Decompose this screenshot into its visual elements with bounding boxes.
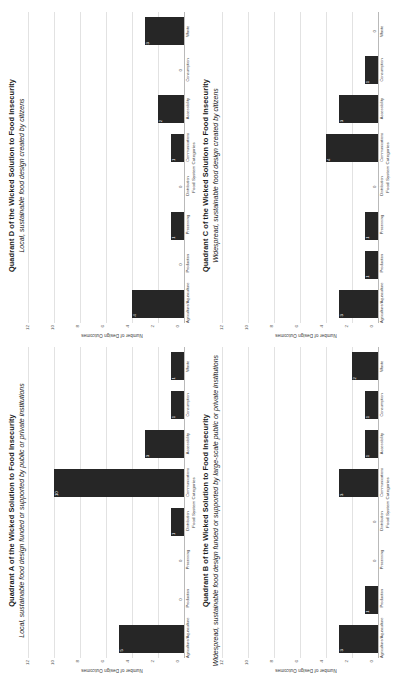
bar-cell[interactable]: 3 xyxy=(222,619,378,658)
bar-value-label: 1 xyxy=(365,416,370,419)
bar[interactable]: 4 xyxy=(326,134,378,162)
x-tick-label: Agriculture/Aquaculture xyxy=(186,618,190,658)
bar-value-label: 0 xyxy=(179,560,184,562)
panel-b-y-axis-label: Number of Design Outcomes xyxy=(275,667,337,674)
x-tick-label: Production xyxy=(186,244,190,283)
bar[interactable]: 3 xyxy=(339,625,378,653)
y-tick-label: 12 xyxy=(219,325,223,332)
bar-cell[interactable]: 0 xyxy=(28,51,184,90)
panel-c-x-ticks: Agriculture/AquacultureProductionProcess… xyxy=(379,12,384,323)
bar-series: 31003112 xyxy=(222,347,378,658)
bar-cell[interactable]: 4 xyxy=(28,284,184,323)
bar-cell[interactable]: 1 xyxy=(28,129,184,168)
bar[interactable]: 1 xyxy=(171,134,184,162)
bar[interactable]: 1 xyxy=(365,430,378,458)
bar-cell[interactable]: 1 xyxy=(222,425,378,464)
bar-cell[interactable]: 3 xyxy=(28,12,184,51)
bar-cell[interactable]: 1 xyxy=(28,386,184,425)
panel-a-plot-area: Number of Design Outcomes 121086420 5001… xyxy=(28,347,196,674)
bar[interactable]: 1 xyxy=(365,391,378,419)
bar-cell[interactable]: 3 xyxy=(222,464,378,503)
bar-cell[interactable]: 0 xyxy=(222,12,378,51)
bar-cell[interactable]: 3 xyxy=(222,284,378,323)
bar[interactable]: 1 xyxy=(171,212,184,240)
bar-cell[interactable]: 1 xyxy=(28,347,184,386)
panel-d-chart: 40101203 Agriculture/AquacultureProducti… xyxy=(28,12,196,323)
panel-b-y-ticks: 121086420 xyxy=(222,658,390,667)
bar-value-label: 0 xyxy=(179,186,184,188)
bar[interactable]: 3 xyxy=(145,17,184,45)
bar-cell[interactable]: 1 xyxy=(28,503,184,542)
bar[interactable]: 1 xyxy=(171,508,184,536)
bar-cell[interactable]: 0 xyxy=(28,580,184,619)
bar-value-label: 3 xyxy=(339,314,344,317)
panel-quadrant-d: Quadrant D of the Wicked Solution to Foo… xyxy=(4,6,198,341)
bar[interactable]: 3 xyxy=(145,430,184,458)
y-tick-label: 2 xyxy=(344,660,348,667)
bar-cell[interactable]: 1 xyxy=(28,206,184,245)
bar[interactable]: 3 xyxy=(339,290,378,318)
panel-a-x-axis-label: Food System Categories xyxy=(191,347,196,658)
bar-value-label: 1 xyxy=(365,81,370,84)
bar-cell[interactable]: 1 xyxy=(222,580,378,619)
bar-value-label: 1 xyxy=(365,275,370,278)
x-tick-label: Distribution xyxy=(380,167,384,206)
bar-cell[interactable]: 1 xyxy=(222,206,378,245)
x-tick-label: Accessibility xyxy=(380,424,384,463)
panel-quadrant-b: Quadrant B of the Wicked Solution to Foo… xyxy=(198,341,392,676)
panel-d-x-ticks: Agriculture/AquacultureProductionProcess… xyxy=(185,12,190,323)
bar-cell[interactable]: 0 xyxy=(28,168,184,207)
bar-cell[interactable]: 0 xyxy=(222,168,378,207)
x-tick-label: Agriculture/Aquaculture xyxy=(186,283,190,323)
y-tick-label: 6 xyxy=(100,660,104,667)
panel-c-subtitle: Widespread, sustainable food design crea… xyxy=(212,12,220,339)
panel-d-gridwrap: 40101203 xyxy=(28,12,185,323)
bar[interactable]: 3 xyxy=(339,95,378,123)
bar[interactable]: 2 xyxy=(352,352,378,380)
bar[interactable]: 5 xyxy=(119,625,184,653)
panel-c-chart: 31104310 Agriculture/AquacultureProducti… xyxy=(222,12,390,323)
bar[interactable]: 4 xyxy=(132,290,184,318)
bar-value-label: 3 xyxy=(145,42,150,45)
bar-cell[interactable]: 1 xyxy=(222,245,378,284)
bar[interactable]: 3 xyxy=(339,469,378,497)
bar-cell[interactable]: 1 xyxy=(222,386,378,425)
bar-value-label: 1 xyxy=(365,236,370,239)
bar-cell[interactable]: 10 xyxy=(28,464,184,503)
bar[interactable]: 1 xyxy=(171,391,184,419)
panel-c-title: Quadrant C of the Wicked Solution to Foo… xyxy=(202,12,211,339)
bar-cell[interactable]: 3 xyxy=(222,90,378,129)
y-tick-label: 8 xyxy=(269,660,273,667)
bar-cell[interactable]: 0 xyxy=(222,503,378,542)
bar[interactable]: 1 xyxy=(365,212,378,240)
y-tick-label: 12 xyxy=(219,660,223,667)
panel-d-y-axis-label: Number of Design Outcomes xyxy=(81,332,143,339)
bar-value-label: 0 xyxy=(373,521,378,523)
panel-c-y-ticks: 121086420 xyxy=(222,323,390,332)
bar-cell[interactable]: 0 xyxy=(28,245,184,284)
bar-cell[interactable]: 2 xyxy=(28,90,184,129)
bar-value-label: 0 xyxy=(179,599,184,601)
bar-cell[interactable]: 5 xyxy=(28,619,184,658)
bar-cell[interactable]: 1 xyxy=(222,51,378,90)
x-tick-label: Consumption xyxy=(186,386,190,425)
bar[interactable]: 1 xyxy=(171,352,184,380)
bar[interactable]: 10 xyxy=(54,469,184,497)
bar-cell[interactable]: 0 xyxy=(222,541,378,580)
bar[interactable]: 2 xyxy=(158,95,184,123)
y-tick-label: 6 xyxy=(294,660,298,667)
y-tick-label: 4 xyxy=(319,660,323,667)
x-tick-label: Processing xyxy=(186,205,190,244)
y-tick-label: 0 xyxy=(369,325,373,332)
y-tick-label: 4 xyxy=(125,325,129,332)
bar-cell[interactable]: 4 xyxy=(222,129,378,168)
panel-b-title: Quadrant B of the Wicked Solution to Foo… xyxy=(202,347,211,674)
bar-cell[interactable]: 0 xyxy=(28,541,184,580)
bar-cell[interactable]: 3 xyxy=(28,425,184,464)
bar-cell[interactable]: 2 xyxy=(222,347,378,386)
bar[interactable]: 1 xyxy=(365,586,378,614)
panel-quadrant-a: Quadrant A of the Wicked Solution to Foo… xyxy=(4,341,198,676)
bar[interactable]: 1 xyxy=(365,251,378,279)
x-tick-label: Production xyxy=(186,579,190,618)
bar[interactable]: 1 xyxy=(365,56,378,84)
